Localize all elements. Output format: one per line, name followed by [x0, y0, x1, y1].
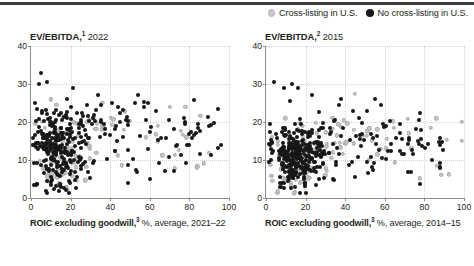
data-point-cross-listing — [276, 189, 280, 193]
data-point-no-cross-listing — [71, 86, 75, 90]
data-point-cross-listing — [460, 120, 464, 124]
data-point-no-cross-listing — [62, 115, 66, 119]
data-point-no-cross-listing — [341, 126, 345, 130]
data-point-no-cross-listing — [354, 134, 358, 138]
data-point-no-cross-listing — [307, 130, 311, 134]
data-point-no-cross-listing — [69, 126, 73, 130]
data-point-no-cross-listing — [33, 101, 37, 105]
data-point-no-cross-listing — [291, 137, 295, 141]
gridline-vertical — [229, 46, 230, 198]
data-point-no-cross-listing — [334, 160, 338, 164]
data-point-no-cross-listing — [69, 153, 73, 157]
data-point-no-cross-listing — [131, 157, 135, 161]
data-point-no-cross-listing — [82, 139, 86, 143]
y-tick-label: 0 — [22, 193, 27, 203]
data-point-no-cross-listing — [332, 119, 336, 123]
gridline-vertical — [189, 46, 190, 198]
gridline-horizontal — [31, 46, 229, 47]
data-point-cross-listing — [460, 139, 464, 143]
data-point-no-cross-listing — [167, 118, 171, 122]
data-point-no-cross-listing — [47, 149, 51, 153]
data-point-no-cross-listing — [314, 183, 318, 187]
data-point-no-cross-listing — [196, 126, 200, 130]
chart-title-2015-footnote: 2 — [317, 30, 321, 37]
x-axis-label-2015: ROIC excluding goodwill,3 %, average, 20… — [265, 216, 474, 228]
data-point-no-cross-listing — [164, 136, 168, 140]
data-point-no-cross-listing — [296, 86, 300, 90]
data-point-no-cross-listing — [85, 103, 89, 107]
data-point-no-cross-listing — [183, 122, 187, 126]
data-point-no-cross-listing — [288, 99, 292, 103]
data-point-cross-listing — [88, 147, 92, 151]
black-dot-icon — [366, 9, 374, 17]
data-point-no-cross-listing — [400, 137, 404, 141]
data-point-no-cross-listing — [298, 117, 302, 121]
data-point-cross-listing — [406, 117, 410, 121]
plot-wrap-2015: 010203040020406080100 — [232, 46, 474, 199]
data-point-no-cross-listing — [314, 170, 318, 174]
data-point-no-cross-listing — [282, 86, 286, 90]
data-point-cross-listing — [43, 126, 47, 130]
data-point-no-cross-listing — [88, 176, 92, 180]
data-point-no-cross-listing — [118, 111, 122, 115]
data-point-no-cross-listing — [56, 135, 60, 139]
data-point-no-cross-listing — [360, 121, 364, 125]
data-point-cross-listing — [393, 160, 397, 164]
data-point-no-cross-listing — [207, 124, 211, 128]
data-point-no-cross-listing — [54, 108, 58, 112]
data-point-no-cross-listing — [154, 109, 158, 113]
data-point-cross-listing — [154, 132, 158, 136]
data-point-no-cross-listing — [327, 151, 331, 155]
data-point-no-cross-listing — [77, 131, 81, 135]
data-point-no-cross-listing — [306, 164, 310, 168]
data-point-no-cross-listing — [62, 168, 66, 172]
data-point-no-cross-listing — [278, 175, 282, 179]
data-point-no-cross-listing — [39, 129, 43, 133]
data-point-no-cross-listing — [321, 121, 325, 125]
data-point-no-cross-listing — [292, 131, 296, 135]
data-point-no-cross-listing — [321, 126, 325, 130]
data-point-no-cross-listing — [52, 187, 56, 191]
data-point-no-cross-listing — [69, 169, 73, 173]
x-tick-mark — [31, 198, 32, 201]
data-point-no-cross-listing — [35, 182, 39, 186]
x-tick-label: 20 — [66, 202, 76, 212]
data-point-no-cross-listing — [68, 158, 72, 162]
data-point-no-cross-listing — [68, 181, 72, 185]
data-point-cross-listing — [329, 156, 333, 160]
data-point-no-cross-listing — [307, 147, 311, 151]
x-axis-label-2022: ROIC excluding goodwill,3 %, average, 20… — [30, 216, 237, 228]
data-point-no-cross-listing — [60, 134, 64, 138]
data-point-no-cross-listing — [426, 142, 430, 146]
data-point-no-cross-listing — [198, 152, 202, 156]
data-point-no-cross-listing — [44, 141, 48, 145]
data-point-no-cross-listing — [73, 144, 77, 148]
data-point-no-cross-listing — [53, 127, 57, 131]
data-point-no-cross-listing — [65, 110, 69, 114]
data-point-no-cross-listing — [406, 142, 410, 146]
data-point-cross-listing — [173, 152, 177, 156]
data-point-no-cross-listing — [414, 127, 418, 131]
data-point-no-cross-listing — [369, 155, 373, 159]
data-point-no-cross-listing — [163, 169, 167, 173]
chart-title-2015-metric: EV/EBITDA, — [265, 32, 317, 42]
x-tick-mark — [71, 198, 72, 201]
gridline-horizontal — [31, 84, 229, 85]
data-point-no-cross-listing — [282, 148, 286, 152]
data-point-no-cross-listing — [72, 158, 76, 162]
data-point-no-cross-listing — [99, 118, 103, 122]
data-point-no-cross-listing — [300, 129, 304, 133]
x-tick-mark — [150, 198, 151, 201]
data-point-no-cross-listing — [300, 132, 304, 136]
data-point-no-cross-listing — [66, 138, 70, 142]
y-tick-label: 10 — [17, 155, 27, 165]
data-point-no-cross-listing — [73, 170, 77, 174]
data-point-no-cross-listing — [322, 176, 326, 180]
data-point-no-cross-listing — [126, 163, 130, 167]
data-point-no-cross-listing — [281, 161, 285, 165]
data-point-no-cross-listing — [365, 160, 369, 164]
data-point-cross-listing — [375, 127, 379, 131]
data-point-no-cross-listing — [288, 134, 292, 138]
data-point-no-cross-listing — [272, 80, 276, 84]
data-point-no-cross-listing — [384, 157, 388, 161]
